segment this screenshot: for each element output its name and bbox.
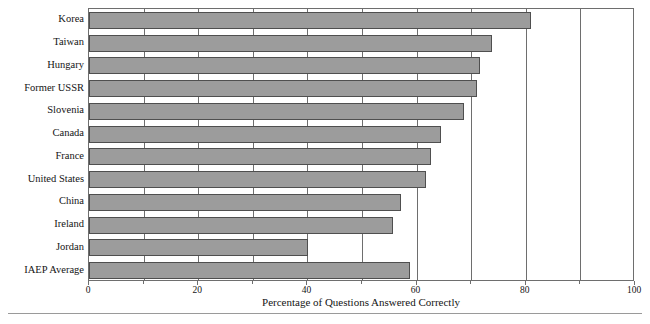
plot-area [88, 8, 634, 281]
footer-caption [10, 315, 570, 324]
x-tick-label-100: 100 [627, 285, 641, 296]
bar-korea[interactable] [89, 12, 531, 29]
x-minor-tick-50 [361, 281, 362, 284]
y-axis-label-former-ussr: Former USSR [0, 82, 84, 94]
y-axis-label-china: China [0, 195, 84, 207]
bar-jordan[interactable] [89, 239, 308, 256]
bar-row [89, 103, 633, 120]
x-axis-title: Percentage of Questions Answered Correct… [88, 296, 634, 309]
x-tick-label-40: 40 [302, 285, 312, 296]
y-axis-label-united-states: United States [0, 173, 84, 185]
bar-row [89, 171, 633, 188]
footer-divider [8, 313, 642, 314]
x-minor-tick-30 [252, 281, 253, 284]
bar-row [89, 80, 633, 97]
y-axis-label-france: France [0, 150, 84, 162]
x-tick-label-60: 60 [411, 285, 421, 296]
y-axis-label-slovenia: Slovenia [0, 104, 84, 116]
bar-row [89, 35, 633, 52]
x-minor-tick-90 [579, 281, 580, 284]
x-tick-label-80: 80 [520, 285, 530, 296]
x-tick-label-20: 20 [192, 285, 202, 296]
bar-row [89, 194, 633, 211]
y-axis-label-hungary: Hungary [0, 59, 84, 71]
y-axis-label-ireland: Ireland [0, 218, 84, 230]
x-minor-tick-70 [470, 281, 471, 284]
bar-hungary[interactable] [89, 57, 480, 74]
y-axis-label-korea: Korea [0, 13, 84, 25]
x-tick-label-0: 0 [86, 285, 91, 296]
bar-france[interactable] [89, 148, 431, 165]
y-axis-label-jordan: Jordan [0, 241, 84, 253]
bar-row [89, 262, 633, 279]
y-axis-label-taiwan: Taiwan [0, 36, 84, 48]
bar-row [89, 148, 633, 165]
bar-slovenia[interactable] [89, 103, 464, 120]
y-axis-label-canada: Canada [0, 127, 84, 139]
bar-united-states[interactable] [89, 171, 426, 188]
bar-rows [89, 9, 633, 280]
y-axis-category-labels: KoreaTaiwanHungaryFormer USSRSloveniaCan… [0, 8, 84, 281]
bar-china[interactable] [89, 194, 401, 211]
bar-row [89, 239, 633, 256]
bar-row [89, 126, 633, 143]
bar-chart-figure: KoreaTaiwanHungaryFormer USSRSloveniaCan… [0, 0, 650, 324]
bar-former-ussr[interactable] [89, 80, 477, 97]
bar-taiwan[interactable] [89, 35, 492, 52]
bar-canada[interactable] [89, 126, 441, 143]
y-axis-label-iaep-average: IAEP Average [0, 264, 84, 276]
bar-row [89, 217, 633, 234]
bar-row [89, 12, 633, 29]
bar-ireland[interactable] [89, 217, 393, 234]
bar-row [89, 57, 633, 74]
x-minor-tick-10 [143, 281, 144, 284]
bar-iaep-average[interactable] [89, 262, 410, 279]
